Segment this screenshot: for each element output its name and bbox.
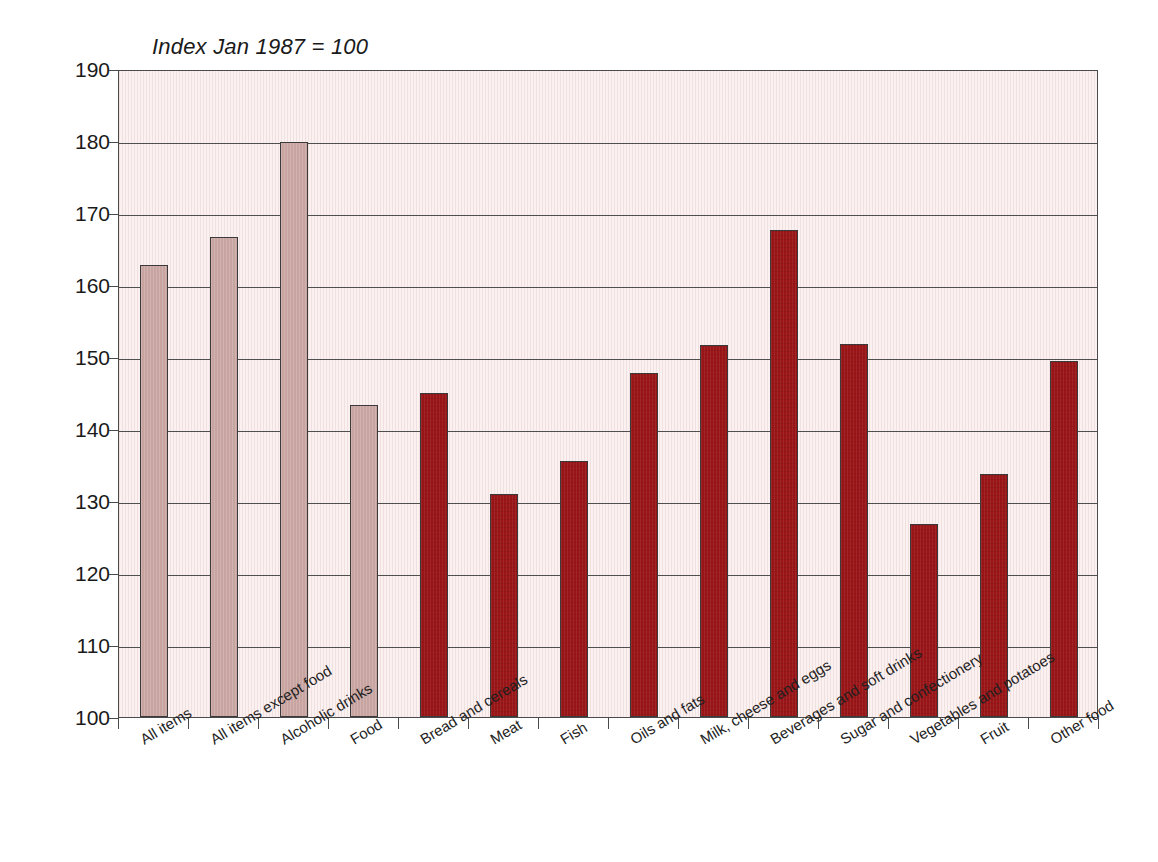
y-axis-tick-mark bbox=[109, 142, 118, 143]
bar bbox=[280, 142, 308, 717]
y-axis-tick-mark bbox=[109, 718, 118, 719]
gridline bbox=[119, 647, 1097, 648]
x-axis-tick-mark bbox=[328, 718, 329, 729]
gridline bbox=[119, 503, 1097, 504]
bar bbox=[700, 345, 728, 717]
x-axis-tick-mark bbox=[258, 718, 259, 729]
bar bbox=[210, 237, 238, 717]
bar bbox=[840, 344, 868, 717]
x-axis-tick-mark bbox=[468, 718, 469, 729]
bar bbox=[350, 405, 378, 717]
x-axis-tick-label: Fruit bbox=[977, 718, 1011, 748]
plot-area bbox=[118, 70, 1098, 718]
plot-texture bbox=[119, 71, 1097, 717]
x-axis-tick-mark bbox=[818, 718, 819, 729]
y-axis-tick-mark bbox=[109, 430, 118, 431]
gridline bbox=[119, 215, 1097, 216]
y-axis-tick-label: 130 bbox=[50, 490, 110, 514]
y-axis-tick-mark bbox=[109, 358, 118, 359]
y-axis-tick-label: 110 bbox=[50, 634, 110, 658]
x-axis-tick-label: Food bbox=[347, 715, 385, 747]
x-axis-tick-label: Fish bbox=[557, 718, 590, 747]
x-axis-tick-mark bbox=[1028, 718, 1029, 729]
gridline bbox=[119, 359, 1097, 360]
x-axis-tick-mark bbox=[888, 718, 889, 729]
y-axis-tick-label: 120 bbox=[50, 562, 110, 586]
y-axis-tick-label: 190 bbox=[50, 58, 110, 82]
gridline bbox=[119, 143, 1097, 144]
gridline bbox=[119, 575, 1097, 576]
gridline bbox=[119, 287, 1097, 288]
x-axis-tick-mark bbox=[678, 718, 679, 729]
y-axis-tick-mark bbox=[109, 646, 118, 647]
y-axis-tick-label: 140 bbox=[50, 418, 110, 442]
gridline bbox=[119, 431, 1097, 432]
bar bbox=[420, 393, 448, 717]
y-axis-tick-mark bbox=[109, 286, 118, 287]
x-axis-tick-mark bbox=[958, 718, 959, 729]
y-axis-tick-label: 100 bbox=[50, 706, 110, 730]
x-axis-tick-mark bbox=[748, 718, 749, 729]
x-axis-tick-mark bbox=[118, 718, 119, 729]
x-axis-tick-mark bbox=[398, 718, 399, 729]
x-axis-tick-mark bbox=[188, 718, 189, 729]
y-axis-tick-label: 160 bbox=[50, 274, 110, 298]
bar bbox=[560, 461, 588, 717]
y-axis-tick-mark bbox=[109, 502, 118, 503]
bar bbox=[770, 230, 798, 717]
y-axis-tick-mark bbox=[109, 214, 118, 215]
y-axis-tick-mark bbox=[109, 70, 118, 71]
x-axis-tick-mark bbox=[608, 718, 609, 729]
x-axis-tick-label: Meat bbox=[487, 716, 524, 748]
y-axis-tick-label: 150 bbox=[50, 346, 110, 370]
y-axis-tick-label: 170 bbox=[50, 202, 110, 226]
x-axis-tick-mark bbox=[1098, 718, 1099, 729]
y-axis-tick-label: 180 bbox=[50, 130, 110, 154]
bar-chart: Index Jan 1987 = 100 1001101201301401501… bbox=[0, 0, 1158, 862]
x-axis-tick-mark bbox=[538, 718, 539, 729]
bar bbox=[140, 265, 168, 717]
y-axis-tick-mark bbox=[109, 574, 118, 575]
bar bbox=[630, 373, 658, 717]
chart-title: Index Jan 1987 = 100 bbox=[152, 34, 368, 60]
